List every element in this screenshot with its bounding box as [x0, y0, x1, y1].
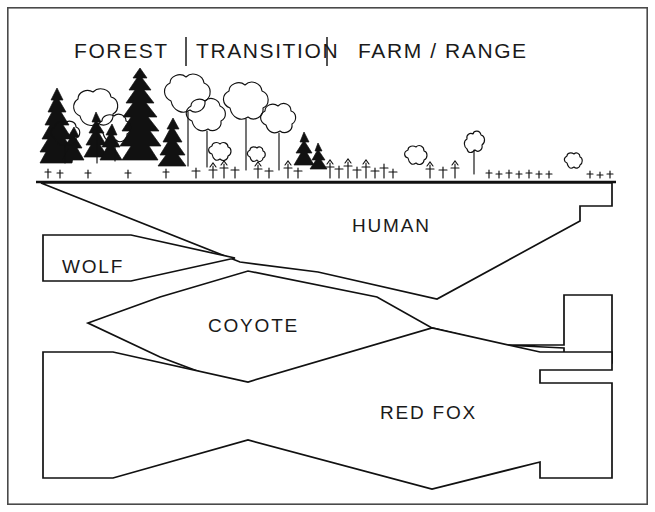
conifer-icon	[120, 68, 161, 160]
grass-tuft	[57, 170, 63, 178]
figure-canvas: FOREST TRANSITION FARM / RANGE	[0, 0, 655, 512]
band-label-wolf: WOLF	[62, 256, 124, 277]
zone-label-transition: TRANSITION	[196, 39, 339, 62]
grass-tuft	[496, 171, 502, 178]
grass-tuft	[546, 171, 552, 178]
grass-tuft	[254, 162, 262, 178]
zone-label-forest: FOREST	[74, 39, 169, 62]
deciduous-tree-icon	[186, 99, 225, 131]
vegetation-profile	[36, 68, 616, 182]
grass-tuft	[486, 170, 492, 178]
grass-tuft	[353, 167, 361, 178]
deciduous-tree-icon	[164, 74, 210, 112]
grass-tuft	[209, 163, 217, 178]
band-label-coyote: COYOTE	[208, 315, 299, 336]
shrub-icon	[247, 147, 265, 162]
deciduous-tree-icon	[261, 104, 296, 133]
shrub-icon	[464, 131, 484, 152]
zone-label-farm-range: FARM / RANGE	[358, 39, 528, 62]
grass-tuft	[125, 170, 131, 178]
grass-tuft	[371, 168, 379, 178]
grass-tuft	[380, 164, 388, 178]
conifer-icon	[84, 112, 108, 157]
grass-tuft	[389, 169, 397, 178]
conifer-icon	[158, 118, 186, 166]
shrub-icon	[564, 153, 582, 168]
shrub-icon	[209, 143, 231, 161]
grass-tuft	[335, 166, 343, 178]
grass-tuft	[451, 161, 459, 178]
grass-tuft	[536, 171, 542, 178]
species-band-group: HUMAN WOLF COYOTE RED FOX	[41, 183, 612, 489]
grass-tuft	[220, 161, 228, 178]
grass-tuft	[426, 162, 434, 178]
grass-tuft	[607, 171, 613, 178]
band-label-human: HUMAN	[352, 215, 431, 236]
grass-tuft	[362, 160, 370, 178]
grass-tuft	[506, 170, 512, 178]
grass-tuft-row	[45, 159, 613, 178]
grass-tuft	[163, 169, 169, 178]
grass-tuft	[587, 171, 593, 178]
grass-tuft	[85, 170, 91, 178]
conifer-icon	[310, 143, 327, 169]
grass-tuft	[45, 169, 51, 178]
ecology-gradient-figure: FOREST TRANSITION FARM / RANGE	[0, 0, 655, 512]
grass-tuft	[294, 168, 302, 178]
grass-tuft	[439, 167, 447, 178]
deciduous-group-transition	[209, 82, 327, 170]
grass-tuft	[265, 168, 273, 178]
shrub-group-farm	[405, 131, 583, 174]
grass-tuft	[526, 170, 532, 178]
conifer-icon	[294, 132, 314, 165]
grass-tuft	[597, 172, 603, 178]
shrub-icon	[405, 146, 427, 165]
grass-tuft	[284, 161, 292, 178]
band-label-red-fox: RED FOX	[380, 402, 477, 423]
grass-tuft	[516, 171, 522, 178]
grass-tuft	[344, 159, 352, 178]
grass-tuft	[231, 167, 239, 178]
grass-tuft	[192, 168, 200, 178]
